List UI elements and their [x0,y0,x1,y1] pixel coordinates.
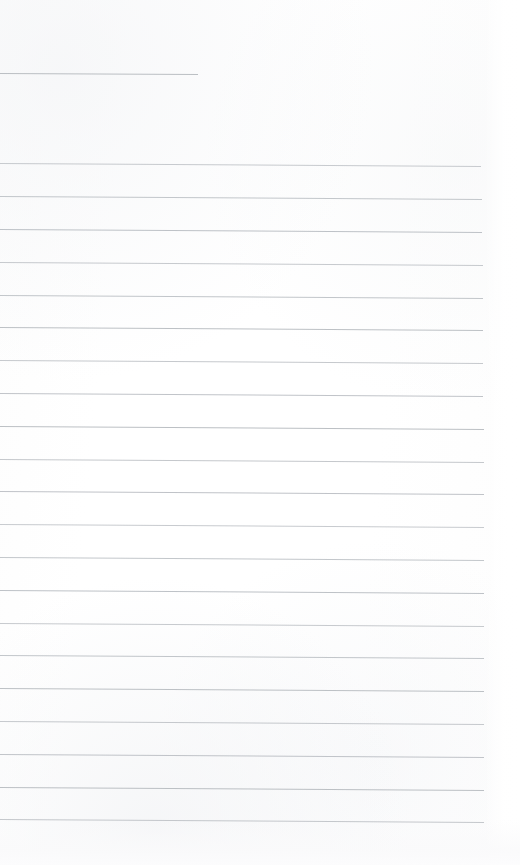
paper-background [0,0,520,865]
scanned-page [0,0,520,865]
